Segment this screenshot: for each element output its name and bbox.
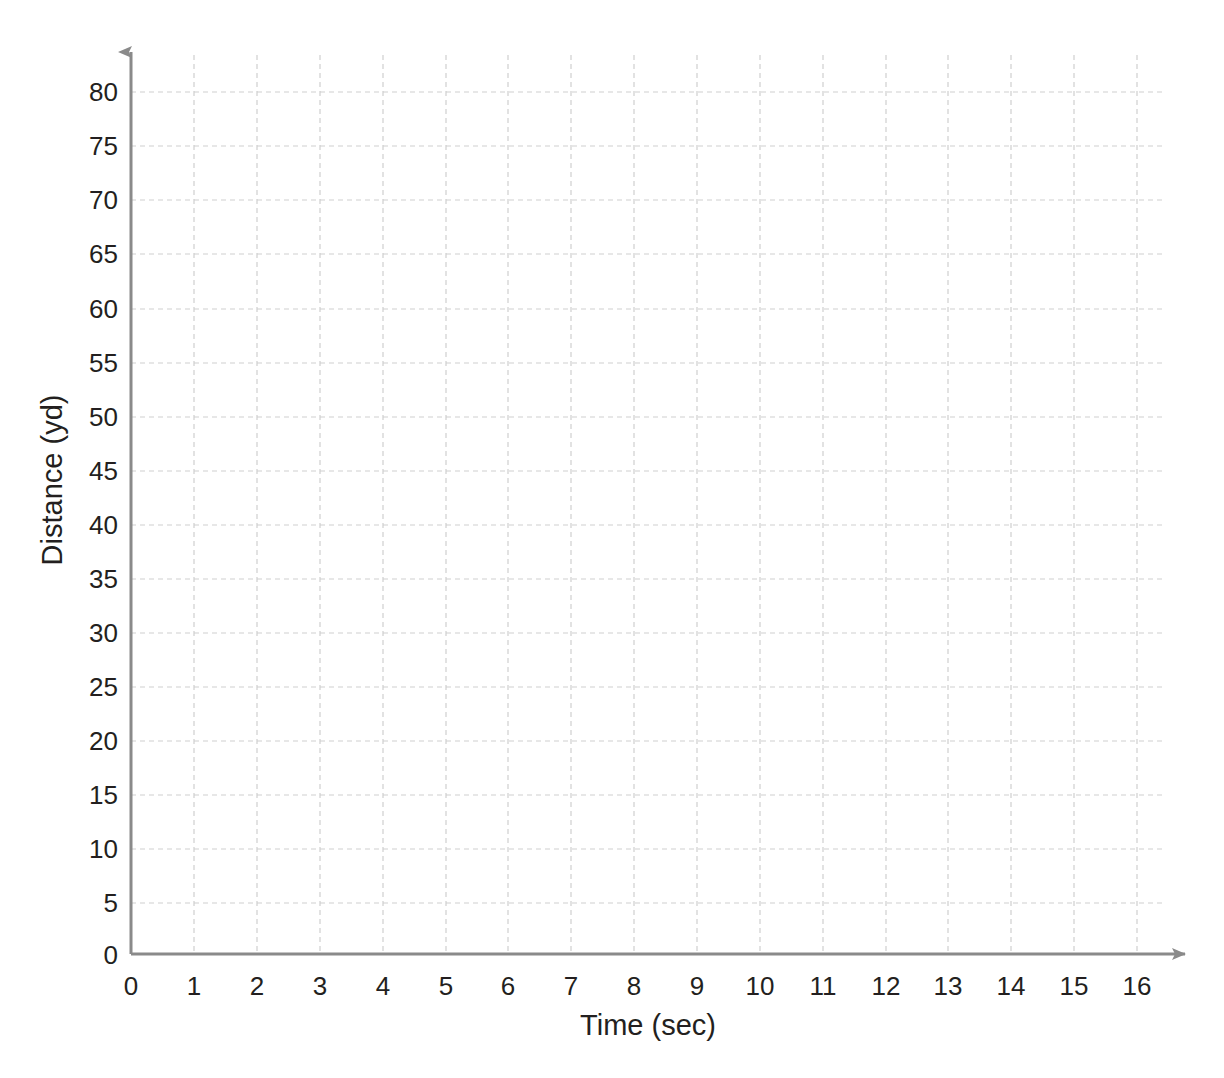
y-tick-label: 10 [89,834,118,864]
y-tick-label: 45 [89,456,118,486]
x-tick-label: 11 [810,971,837,1001]
x-tick-label: 13 [934,971,963,1001]
x-tick-labels: 0 1 2 3 4 5 6 7 8 9 10 11 12 13 14 15 16 [124,971,1152,1001]
y-tick-label: 30 [89,618,118,648]
y-tick-label: 60 [89,294,118,324]
x-tick-label: 0 [124,971,138,1001]
x-tick-label: 9 [690,971,704,1001]
x-tick-label: 1 [187,971,201,1001]
y-tick-label: 80 [89,77,118,107]
y-tick-label: 25 [89,672,118,702]
x-tick-label: 15 [1060,971,1089,1001]
x-tick-label: 7 [564,971,578,1001]
x-tick-label: 12 [872,971,901,1001]
chart-container: 80 75 70 65 60 55 50 45 40 35 30 25 20 1… [0,0,1224,1078]
x-tick-label: 4 [376,971,390,1001]
x-tick-label: 5 [439,971,453,1001]
coordinate-grid-plot: 80 75 70 65 60 55 50 45 40 35 30 25 20 1… [0,0,1224,1078]
y-axis-title: Distance (yd) [36,395,68,566]
x-tick-label: 10 [746,971,775,1001]
y-tick-label: 5 [104,888,118,918]
y-tick-label: 40 [89,510,118,540]
x-tick-label: 6 [501,971,515,1001]
x-tick-label: 3 [313,971,327,1001]
y-tick-label: 55 [89,348,118,378]
x-tick-label: 2 [250,971,264,1001]
grid-vertical-lines [194,55,1137,954]
y-tick-label: 70 [89,185,118,215]
y-tick-label: 50 [89,402,118,432]
y-tick-label: 0 [104,940,118,970]
x-axis-title: Time (sec) [580,1009,716,1041]
x-tick-label: 8 [627,971,641,1001]
y-tick-label: 15 [89,780,118,810]
grid-horizontal-lines [131,92,1162,903]
y-tick-labels: 80 75 70 65 60 55 50 45 40 35 30 25 20 1… [89,77,118,970]
y-tick-label: 65 [89,239,118,269]
y-tick-label: 20 [89,726,118,756]
x-tick-label: 14 [997,971,1026,1001]
x-tick-label: 16 [1123,971,1152,1001]
y-tick-label: 35 [89,564,118,594]
y-tick-label: 75 [89,131,118,161]
